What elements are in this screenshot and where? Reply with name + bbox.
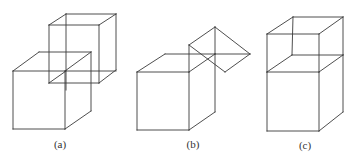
- panel-b-rotated-cube: [137, 27, 250, 130]
- panel-b-label: (b): [187, 138, 200, 150]
- cube-edge: [99, 70, 116, 83]
- cube-edge: [267, 17, 293, 34]
- cube-edge: [137, 54, 165, 72]
- cube-edge: [319, 17, 343, 34]
- cube-edge: [13, 52, 39, 71]
- cropped-figure-caption: [30, 154, 260, 158]
- cube-edge: [319, 112, 343, 131]
- cube-edge: [99, 14, 116, 25]
- panel-a-translated-cubes: [13, 14, 116, 129]
- cube-edge: [49, 71, 66, 83]
- panel-a-label: (a): [54, 138, 66, 150]
- cube-edge: [189, 27, 215, 45]
- cube-edge: [49, 14, 66, 25]
- cube-edge: [267, 55, 292, 72]
- cube-diagram: [0, 0, 352, 158]
- cube-edge: [225, 54, 250, 72]
- cube-edge: [65, 111, 91, 129]
- cube-edge: [292, 17, 293, 55]
- cube-edge: [319, 55, 343, 72]
- cube-edge: [65, 52, 91, 71]
- panel-c-label: (c): [299, 139, 311, 151]
- panel-c-stacked-cubes: [267, 17, 343, 131]
- cube-edge: [189, 112, 215, 130]
- cube-edge: [215, 27, 250, 54]
- cube-edge: [189, 54, 215, 72]
